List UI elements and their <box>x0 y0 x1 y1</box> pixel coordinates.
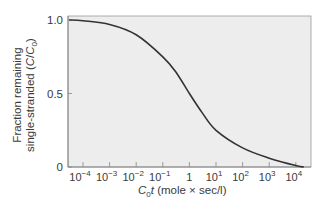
y-label-line2: single-stranded (C/C0) <box>24 38 41 152</box>
y-axis-label: Fraction remaining single-stranded (C/C0… <box>6 20 46 170</box>
x-tick-label: 1 <box>186 171 192 183</box>
x-tick-label: 10−1 <box>149 169 171 183</box>
x-tick-label: 103 <box>259 169 276 183</box>
y-tick-label: 0 <box>57 161 63 173</box>
x-tick-label: 102 <box>232 169 249 183</box>
x-tick-label: 10−3 <box>96 169 118 183</box>
x-axis-label: C0t (mole × sec/l) <box>138 184 227 199</box>
plot-background <box>68 16 311 167</box>
y-label-line1: Fraction remaining <box>11 38 24 152</box>
x-tick-label: 10−4 <box>69 169 91 183</box>
x-tick-label: 10−2 <box>123 169 145 183</box>
y-tick-label: 1.0 <box>47 14 63 26</box>
x-tick-label: 104 <box>285 169 302 183</box>
x-tick-label: 101 <box>206 169 223 183</box>
plot-area: 00.51.0 10−410−310−210−11101102103104 <box>0 0 326 211</box>
y-tick-label: 0.5 <box>47 88 63 100</box>
